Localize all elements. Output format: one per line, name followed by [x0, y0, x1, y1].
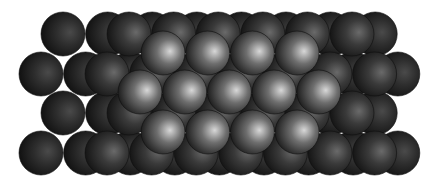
sphere [297, 70, 341, 114]
sphere [275, 31, 319, 75]
sphere [141, 31, 185, 75]
sphere [19, 52, 63, 96]
sphere [186, 31, 230, 75]
sphere [207, 70, 251, 114]
sphere [353, 52, 397, 96]
sphere [19, 131, 63, 175]
sphere [230, 31, 274, 75]
sphere [353, 131, 397, 175]
sphere [252, 70, 296, 114]
sphere [330, 12, 374, 56]
sphere [85, 131, 129, 175]
sphere [186, 110, 230, 154]
sphere [41, 91, 85, 135]
sphere [275, 110, 319, 154]
sphere [163, 70, 207, 114]
sphere [230, 110, 274, 154]
top-layer [118, 31, 341, 154]
sphere [41, 12, 85, 56]
sphere [141, 110, 185, 154]
sphere-lattice [0, 0, 436, 187]
sphere [118, 70, 162, 114]
